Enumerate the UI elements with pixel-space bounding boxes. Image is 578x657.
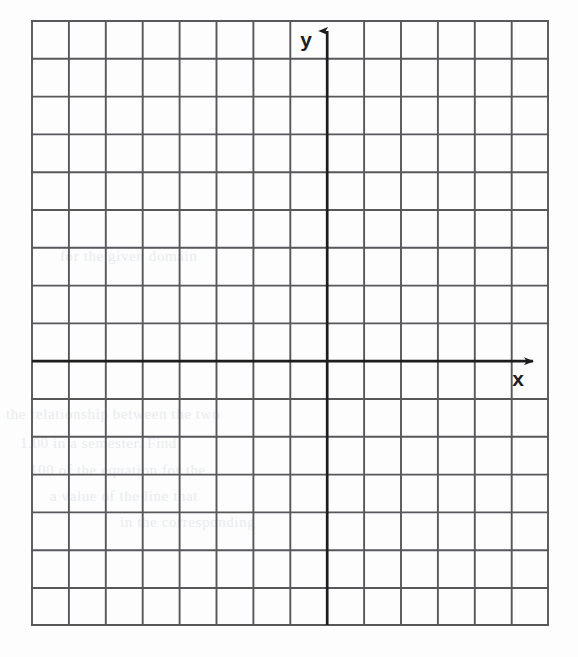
scanned-page: for the given domain the relationship be… — [0, 0, 578, 657]
coordinate-grid-figure: y x — [0, 0, 578, 657]
y-axis-label: y — [300, 28, 312, 51]
coordinate-plane-svg: y x — [0, 0, 578, 657]
x-axis-label: x — [512, 367, 524, 390]
grid-lines — [32, 21, 548, 625]
axes — [32, 31, 533, 625]
